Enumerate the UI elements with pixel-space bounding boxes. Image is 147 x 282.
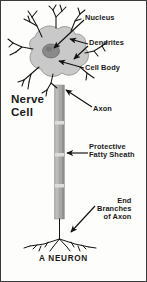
figure-caption: A NEURON bbox=[39, 255, 88, 264]
label-dendrites: Dendrites bbox=[89, 39, 124, 47]
axon-terminal-branches-shape bbox=[24, 219, 96, 251]
axon-shape bbox=[55, 85, 65, 219]
label-end-branches-of-axon: End Branches of Axon bbox=[97, 197, 131, 221]
label-cell-body: Cell Body bbox=[85, 64, 120, 72]
figure-title: Nerve Cell bbox=[11, 92, 44, 118]
leader-axon bbox=[66, 90, 92, 107]
soma-shape bbox=[30, 26, 89, 77]
label-axon: Axon bbox=[93, 105, 112, 113]
label-nucleus: Nucleus bbox=[85, 14, 114, 22]
nucleus-shape bbox=[43, 44, 60, 58]
neuron-diagram-figure: Nucleus Dendrites Cell Body Axon Protect… bbox=[0, 0, 147, 282]
label-protective-fatty-sheath: Protective Fatty Sheath bbox=[89, 143, 135, 159]
leader-end-branches bbox=[71, 206, 95, 232]
